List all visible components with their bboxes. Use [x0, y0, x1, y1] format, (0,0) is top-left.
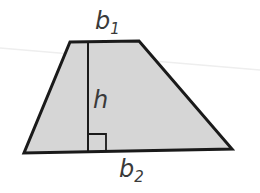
bottom-base-label: b2 [119, 155, 144, 186]
trapezoid-diagram: b1 h b2 [0, 0, 260, 193]
trapezoid-shape [24, 41, 232, 153]
height-label: h [93, 86, 108, 114]
top-base-label: b1 [95, 7, 120, 38]
